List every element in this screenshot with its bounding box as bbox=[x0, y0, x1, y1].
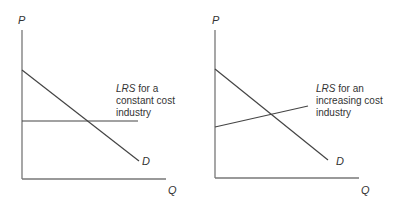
right-lrs-label: LRS for an increasing cost industry bbox=[316, 83, 383, 119]
lrs-italic: LRS bbox=[316, 83, 335, 94]
right-q-label: Q bbox=[361, 184, 370, 196]
right-p-label: P bbox=[212, 14, 219, 26]
left-lrs-label: LRS for a constant cost industry bbox=[116, 83, 175, 119]
left-q-label: Q bbox=[168, 184, 177, 196]
right-d-label: D bbox=[336, 155, 344, 167]
right-lrs-curve bbox=[215, 106, 308, 127]
lrs-italic: LRS bbox=[116, 83, 135, 94]
left-p-label: P bbox=[18, 14, 25, 26]
left-d-label: D bbox=[142, 155, 150, 167]
